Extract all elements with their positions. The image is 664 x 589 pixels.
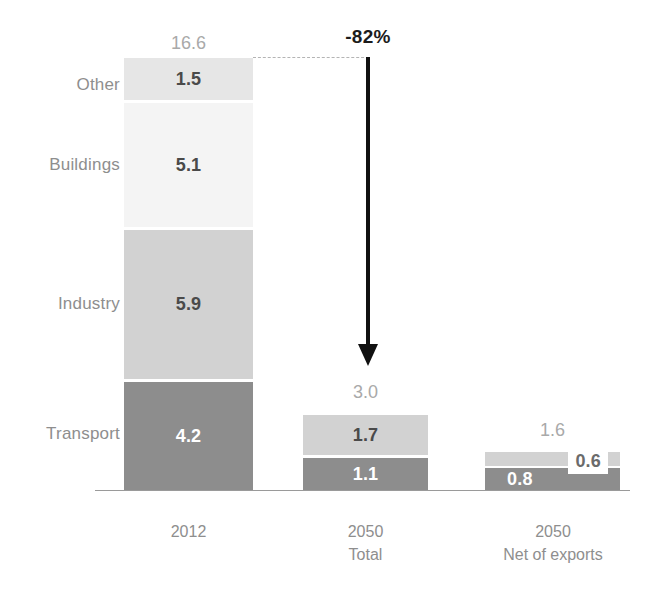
annotation-arrow-shaft xyxy=(366,57,370,345)
x-tick-2050-total-line2: Total xyxy=(303,543,428,566)
category-label-buildings: Buildings xyxy=(0,155,120,175)
x-tick-2050-net-line1: 2050 xyxy=(478,520,628,543)
x-tick-2012-line1: 2012 xyxy=(124,520,253,543)
bar-segment-2050-industry: 1.7 xyxy=(303,415,428,455)
bar-value-2050-net-industry: 0.6 xyxy=(568,450,608,474)
category-label-industry: Industry xyxy=(0,294,120,314)
x-tick-2050-net-line2: Net of exports xyxy=(478,543,628,566)
x-tick-2050-net-exports: 2050 Net of exports xyxy=(478,520,628,566)
bar-segment-2050-net-industry: 0.6 xyxy=(485,452,620,466)
axis-baseline xyxy=(95,490,630,491)
bar-value-2012-buildings: 5.1 xyxy=(176,155,202,176)
annotation-arrow-head xyxy=(358,344,378,366)
bar-segment-2012-transport: 4.2 xyxy=(124,382,253,490)
bar-value-2012-transport: 4.2 xyxy=(176,426,202,447)
bar-value-2050-transport: 1.1 xyxy=(353,464,379,485)
bar-segment-2012-industry: 5.9 xyxy=(124,230,253,379)
bar-value-2050-industry: 1.7 xyxy=(353,425,379,446)
annotation-percent-label: -82% xyxy=(322,26,414,48)
bar-segment-2012-other: 1.5 xyxy=(124,58,253,100)
category-label-other: Other xyxy=(0,75,120,95)
category-label-transport: Transport xyxy=(0,424,120,444)
bar-value-2050-net-transport: 0.8 xyxy=(507,469,533,490)
total-label-2050-net-exports: 1.6 xyxy=(485,420,620,441)
total-label-2012: 16.6 xyxy=(124,33,253,54)
annotation-dashed-connector xyxy=(253,57,369,58)
x-tick-2050-total: 2050 Total xyxy=(303,520,428,566)
total-label-2050: 3.0 xyxy=(303,382,428,403)
bar-value-2012-industry: 5.9 xyxy=(176,294,202,315)
bar-value-2012-other: 1.5 xyxy=(176,69,202,90)
bar-segment-2050-transport: 1.1 xyxy=(303,458,428,490)
bar-segment-2012-buildings: 5.1 xyxy=(124,103,253,227)
x-tick-2050-total-line1: 2050 xyxy=(303,520,428,543)
stacked-bar-chart: 16.6 3.0 1.6 Other Buildings Industry Tr… xyxy=(0,0,664,589)
x-tick-2012: 2012 xyxy=(124,520,253,543)
